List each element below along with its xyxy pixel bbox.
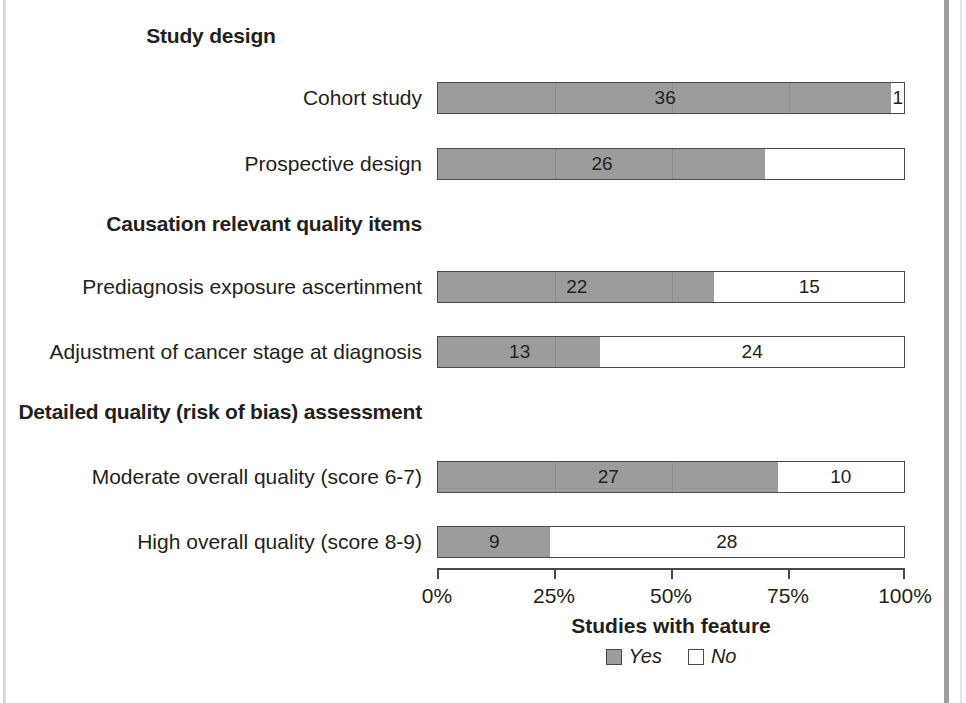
bar-segment-yes: 9 [438,527,552,557]
legend-item: Yes [606,645,662,668]
bar-gridline-mark [672,149,673,179]
bar-segment-no: 15 [714,272,904,302]
bar-value-yes: 36 [655,87,676,109]
bar-segment-yes: 13 [438,337,602,367]
bar-segment-no: 10 [778,462,904,492]
bar-gridline-mark [555,149,556,179]
bar-value-no: 1 [892,87,903,109]
stacked-bar: 1324 [437,336,905,368]
category-label: High overall quality (score 8-9) [0,525,422,559]
x-axis-tick [437,568,439,579]
stacked-bar: 2215 [437,271,905,303]
category-label: Prediagnosis exposure ascertinment [0,270,422,304]
legend-item: No [688,645,737,668]
category-label: Prospective design [0,147,422,181]
category-label: Moderate overall quality (score 6-7) [0,460,422,494]
x-axis-tick [671,568,673,579]
category-label: Cohort study [0,81,422,115]
bar-segment-no [765,149,904,179]
bar-segment-yes: 26 [438,149,767,179]
bar-gridline-mark [555,462,556,492]
bar-value-yes: 22 [566,276,587,298]
section-heading: Study design [0,24,422,48]
x-axis-title: Studies with feature [437,614,905,638]
x-axis-tick-label: 25% [533,584,575,608]
bar-value-no: 24 [742,341,763,363]
x-axis-tick [788,568,790,579]
x-axis-tick-label: 100% [878,584,932,608]
bar-segment-yes: 36 [438,83,893,113]
chart-row: Cohort study361 [0,81,944,115]
section-heading: Detailed quality (risk of bias) assessme… [0,400,422,424]
bar-gridline-mark [555,272,556,302]
chart-legend: YesNo [437,645,905,668]
bar-segment-yes: 22 [438,272,716,302]
legend-swatch-no [688,649,704,665]
stacked-bar: 2710 [437,461,905,493]
bar-gridline-mark [789,83,790,113]
legend-label: No [711,645,737,668]
x-axis-tick-label: 0% [422,584,452,608]
page-edge-right [944,0,949,703]
chart-row: Prospective design26 [0,147,944,181]
bar-value-no: 28 [716,531,737,553]
bar-segment-yes: 27 [438,462,780,492]
bar-value-yes: 27 [598,466,619,488]
chart-row: High overall quality (score 8-9)928 [0,525,944,559]
x-axis [437,568,905,580]
category-label: Adjustment of cancer stage at diagnosis [0,335,422,369]
stacked-bar: 928 [437,526,905,558]
bar-value-no: 15 [799,276,820,298]
bar-segment-no: 28 [550,527,904,557]
x-axis-tick-label: 50% [650,584,692,608]
bar-gridline-mark [672,272,673,302]
bar-value-yes: 26 [591,153,612,175]
x-axis-tick [554,568,556,579]
bar-gridline-mark [672,462,673,492]
stacked-bar: 26 [437,148,905,180]
bar-value-yes: 9 [489,531,500,553]
chart-row: Moderate overall quality (score 6-7)2710 [0,460,944,494]
page-edge-right-outer [960,0,962,703]
stacked-bar: 361 [437,82,905,114]
bar-value-yes: 13 [509,341,530,363]
bar-gridline-mark [555,337,556,367]
legend-swatch-yes [606,649,622,665]
bar-value-no: 10 [830,466,851,488]
legend-label: Yes [629,645,662,668]
bar-segment-no: 1 [891,83,904,113]
x-axis-tick [903,568,905,579]
section-heading: Causation relevant quality items [0,212,422,236]
chart-row: Adjustment of cancer stage at diagnosis1… [0,335,944,369]
x-axis-tick-label: 75% [767,584,809,608]
bar-segment-no: 24 [600,337,904,367]
chart-row: Prediagnosis exposure ascertinment2215 [0,270,944,304]
bar-gridline-mark [555,83,556,113]
